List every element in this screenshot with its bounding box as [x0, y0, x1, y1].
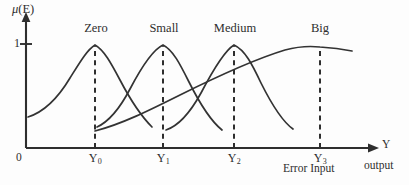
y-tick-label-1: 1 [14, 37, 20, 49]
membership-curves [28, 45, 352, 131]
x-tick-base-y1: Y [157, 151, 166, 165]
curve-big [95, 47, 352, 131]
curve-medium [166, 45, 293, 130]
x-tick-label-y0: Y0 [78, 152, 112, 164]
y-axis [20, 12, 32, 148]
x-tick-base-y2: Y [228, 151, 237, 165]
x-tick-sub-y0: 0 [98, 157, 102, 166]
x-tick-sub-y2: 2 [237, 157, 241, 166]
x-tick-label-y1: Y1 [146, 152, 180, 164]
set-label-small: Small [140, 22, 188, 35]
set-label-zero: Zero [72, 22, 120, 35]
x-tick-sub-y1: 1 [166, 157, 170, 166]
error-input-caption: Error Input [283, 163, 334, 175]
x-axis-unit: output [364, 160, 393, 172]
x-tick-label-y2: Y2 [217, 152, 251, 164]
y-axis-title: μ(E) [12, 3, 34, 16]
origin-label: 0 [16, 152, 22, 164]
set-label-medium: Medium [204, 22, 266, 35]
curve-zero [28, 45, 152, 127]
set-label-big: Big [299, 22, 341, 35]
x-axis-name: Y [382, 139, 390, 151]
y-axis-title-text: (E) [18, 2, 34, 16]
membership-function-figure: μ(E) 1 0 Zero Small Medium Big Y0 Y1 Y2 … [0, 0, 409, 185]
x-tick-base-y0: Y [89, 151, 98, 165]
